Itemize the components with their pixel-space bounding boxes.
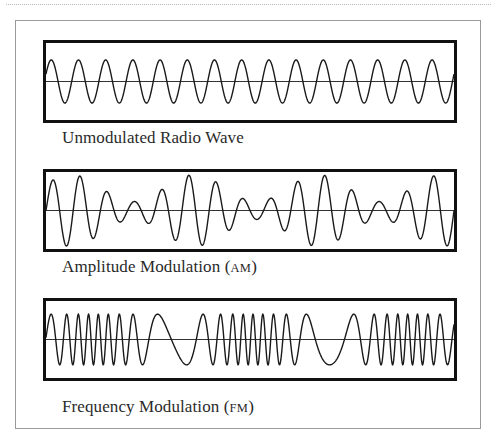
caption-text: Frequency Modulation xyxy=(62,397,219,416)
fm-wave-panel xyxy=(43,298,457,381)
caption-text: Unmodulated Radio Wave xyxy=(62,128,244,147)
caption-abbrev: FM xyxy=(229,401,248,415)
caption-abbrev: AM xyxy=(230,261,251,275)
caption-text: Amplitude Modulation xyxy=(62,257,220,276)
unmodulated-wave-panel xyxy=(43,40,457,123)
top-dotted-rule xyxy=(6,4,491,5)
am-wave-plot xyxy=(46,172,454,249)
am-wave-panel xyxy=(43,169,457,252)
fm-wave-caption: Frequency Modulation (FM) xyxy=(62,397,254,417)
am-wave-caption: Amplitude Modulation (AM) xyxy=(62,257,257,277)
unmodulated-wave-caption: Unmodulated Radio Wave xyxy=(62,128,244,148)
unmodulated-wave-plot xyxy=(46,43,454,120)
fm-wave-plot xyxy=(46,301,454,378)
